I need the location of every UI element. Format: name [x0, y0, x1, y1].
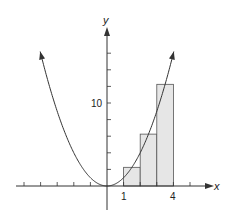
x-tick-label-1: 1 [121, 191, 127, 202]
curve-arrow-left-icon [39, 52, 45, 60]
chart-canvas: x y 1 4 10 [0, 0, 232, 219]
y-axis [104, 27, 111, 210]
curve-arrow-right-icon [169, 52, 175, 60]
x-tick-label-4: 4 [170, 191, 176, 202]
riemann-rectangle [157, 84, 174, 186]
y-tick-label-10: 10 [91, 98, 103, 109]
x-axis-arrow-icon [205, 183, 214, 189]
y-axis-label: y [102, 14, 110, 26]
x-axis-label: x [213, 180, 220, 192]
x-axis [16, 182, 214, 189]
y-axis-arrow-icon [104, 27, 110, 36]
riemann-rectangle [140, 134, 157, 186]
riemann-rectangle [124, 167, 141, 186]
